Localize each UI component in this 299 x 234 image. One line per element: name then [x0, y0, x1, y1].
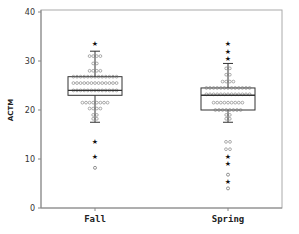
extreme-outlier-star: ★ — [92, 153, 98, 161]
data-point — [92, 117, 95, 120]
outlier-circle — [227, 187, 230, 190]
y-tick-label: 40 — [25, 8, 35, 17]
data-point — [92, 101, 95, 104]
x-axis: FallSpring — [84, 208, 244, 224]
data-point — [103, 101, 106, 104]
box-spring: ★★★★★★ — [201, 40, 255, 190]
data-point — [99, 107, 102, 110]
y-tick-label: 20 — [25, 106, 35, 115]
data-point — [225, 80, 228, 83]
data-point — [92, 55, 95, 58]
iqr-box — [68, 77, 122, 96]
data-point — [88, 107, 91, 110]
extreme-outlier-star: ★ — [92, 138, 98, 146]
data-point — [228, 67, 231, 70]
data-point — [95, 114, 98, 117]
data-point — [99, 69, 102, 72]
outlier-circle — [225, 148, 228, 151]
data-point — [99, 101, 102, 104]
data-point — [85, 101, 88, 104]
outlier-circle — [225, 140, 228, 143]
data-point — [232, 80, 235, 83]
x-category-label-spring: Spring — [212, 214, 245, 224]
data-point — [106, 101, 109, 104]
data-point — [221, 80, 224, 83]
data-point — [225, 117, 228, 120]
data-point — [228, 73, 231, 76]
extreme-outlier-star: ★ — [225, 178, 231, 186]
x-category-label-fall: Fall — [84, 214, 106, 224]
data-point — [95, 107, 98, 110]
data-point — [225, 67, 228, 70]
box-plot-chart: 010203040 FallSpring ACTM ★★★★★★★★★ — [0, 0, 299, 234]
y-tick-label: 10 — [25, 155, 35, 164]
extreme-outlier-star: ★ — [92, 40, 98, 48]
data-point — [95, 69, 98, 72]
y-tick-label: 0 — [30, 204, 35, 213]
data-point — [225, 114, 228, 117]
data-point — [92, 69, 95, 72]
outlier-circle — [94, 166, 97, 169]
outlier-circle — [229, 148, 232, 151]
iqr-box — [201, 88, 255, 110]
data-point — [228, 114, 231, 117]
y-axis: 010203040 — [25, 8, 41, 213]
data-point — [92, 107, 95, 110]
y-tick-label: 30 — [25, 57, 35, 66]
data-point — [228, 117, 231, 120]
data-point — [88, 101, 91, 104]
data-point — [228, 80, 231, 83]
data-point — [81, 101, 84, 104]
outlier-circle — [229, 140, 232, 143]
box-fall: ★★★ — [68, 40, 122, 169]
extreme-outlier-star: ★ — [225, 55, 231, 63]
data-point — [88, 55, 91, 58]
data-point — [99, 55, 102, 58]
data-point — [95, 117, 98, 120]
data-point — [88, 69, 91, 72]
extreme-outlier-star: ★ — [225, 160, 231, 168]
boxes: ★★★★★★★★★ — [68, 40, 255, 190]
data-point — [95, 55, 98, 58]
data-point — [92, 114, 95, 117]
data-point — [95, 101, 98, 104]
y-axis-title: ACTM — [7, 99, 15, 121]
data-point — [92, 62, 95, 65]
data-point — [95, 62, 98, 65]
data-point — [225, 73, 228, 76]
outlier-circle — [227, 173, 230, 176]
